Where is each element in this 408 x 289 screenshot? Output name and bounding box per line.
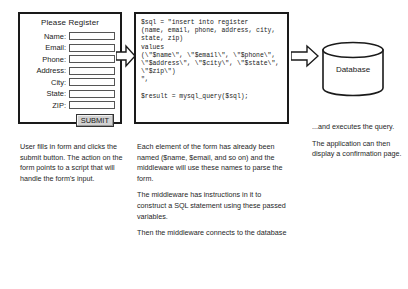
caption-middle-paragraph-3: Then the middleware connects to the data…	[137, 228, 289, 239]
field-input-city[interactable]	[69, 78, 115, 86]
caption-left-paragraph-1: User fills in form and clicks the submit…	[20, 142, 136, 184]
field-input-zip[interactable]	[69, 101, 115, 109]
form-row: ZIP:	[24, 100, 115, 110]
form-row: City:	[24, 77, 115, 87]
field-label-city: City:	[51, 78, 69, 87]
field-label-zip: ZIP:	[52, 101, 69, 110]
form-row: State:	[24, 89, 115, 99]
field-label-address: Address:	[36, 66, 69, 75]
submit-button[interactable]: SUBMIT	[76, 114, 114, 127]
caption-right-paragraph-1: ...and executes the query.	[312, 122, 404, 133]
form-title: Please Register	[20, 18, 120, 27]
form-row: Phone:	[24, 54, 115, 64]
field-input-state[interactable]	[69, 90, 115, 98]
registration-form-panel: Please Register Name: Email: Phone: Addr…	[18, 12, 122, 124]
field-input-phone[interactable]	[69, 55, 115, 63]
field-label-state: State:	[46, 89, 69, 98]
field-label-email: Email:	[45, 43, 69, 52]
block-arrow-right-icon	[116, 44, 136, 68]
caption-right: ...and executes the query. The applicati…	[312, 122, 404, 160]
caption-left: User fills in form and clicks the submit…	[20, 142, 136, 184]
database-shape: Database	[322, 41, 384, 97]
sql-code-text: $sql = "insert into register (name, emai…	[141, 19, 283, 101]
database-label: Database	[322, 41, 384, 97]
field-label-phone: Phone:	[42, 55, 69, 64]
form-row: Name:	[24, 31, 115, 41]
submit-row: SUBMIT	[20, 114, 114, 127]
block-arrow-right-icon	[291, 44, 319, 68]
form-row: Address:	[24, 66, 115, 76]
caption-middle-paragraph-1: Each element of the form has already bee…	[137, 142, 289, 184]
field-input-email[interactable]	[69, 44, 115, 52]
sql-code-panel: $sql = "insert into register (name, emai…	[134, 12, 289, 124]
field-label-name: Name:	[44, 32, 69, 41]
form-row: Email:	[24, 43, 115, 53]
caption-right-paragraph-2: The application can then display a confi…	[312, 139, 404, 160]
field-input-address[interactable]	[69, 67, 115, 75]
caption-middle: Each element of the form has already bee…	[137, 142, 289, 239]
caption-middle-paragraph-2: The middleware has instructions in it to…	[137, 190, 289, 222]
field-input-name[interactable]	[69, 32, 115, 40]
